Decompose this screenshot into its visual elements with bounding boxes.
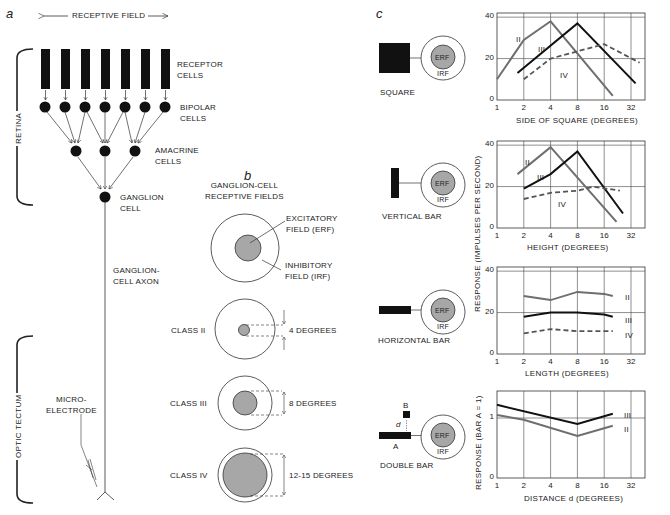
x-axis-label-height: HEIGHT (DEGREES) [527, 243, 609, 252]
class-ii-field [215, 299, 284, 359]
class-iv-size: 12-15 DEGREES [289, 470, 353, 481]
microelectrode [81, 414, 97, 487]
x-tick: 1 [495, 481, 499, 490]
class-iv-field [218, 448, 284, 502]
series-label-II: II [525, 157, 530, 168]
x-tick: 4 [548, 231, 552, 240]
panel-a-letter: a [6, 6, 13, 21]
irf-label: IRF [437, 446, 449, 457]
distance-d-label: d [396, 419, 401, 430]
series-label-II: II [625, 292, 630, 303]
ganglion-cell-label: GANGLIONCELL [120, 192, 164, 214]
x-tick: 32 [627, 103, 636, 112]
irf-label: IRF [437, 321, 449, 332]
y-tick: 20 [480, 181, 494, 190]
bar-b-label: B [403, 400, 409, 411]
class-iv-label: CLASS IV [170, 470, 208, 481]
diagram-canvas [0, 0, 670, 515]
series-III [524, 313, 613, 317]
y-tick: 0 [480, 222, 494, 231]
x-tick: 2 [522, 231, 526, 240]
class-iii-size: 8 DEGREES [289, 398, 337, 409]
series-label-IV: IV [625, 330, 633, 341]
series-label-II: II [516, 34, 521, 45]
x-tick: 8 [575, 357, 579, 366]
x-tick: 16 [600, 481, 609, 490]
series-label-III: III [624, 410, 631, 421]
receptor-cells [41, 49, 170, 89]
ganglion-axon-label: GANGLION-CELL AXON [113, 265, 160, 287]
x-tick: 16 [600, 357, 609, 366]
inhibitory-field-label: INHIBITORYFIELD (IRF) [285, 260, 333, 282]
series-IV [524, 187, 620, 199]
amacrine-cells [71, 146, 141, 157]
optic-tectum-label: OPTIC TECTUM [14, 393, 23, 460]
stimulus-horizontal-bar [379, 290, 465, 334]
irf-label: IRF [437, 68, 449, 79]
retina-label: RETINA [14, 111, 23, 146]
series-IV [524, 329, 613, 333]
y-tick: 20 [480, 307, 494, 316]
class-ii-size: 4 DEGREES [289, 325, 337, 336]
series-label-IV: IV [560, 70, 568, 81]
bar-a-label: A [393, 441, 399, 452]
y-tick: 0 [480, 94, 494, 103]
y-tick: 0 [480, 348, 494, 357]
x-tick: 32 [627, 357, 636, 366]
y-tick: 1 [480, 412, 494, 421]
series-label-III: III [537, 172, 544, 183]
x-tick: 32 [627, 481, 636, 490]
x-tick: 8 [575, 231, 579, 240]
y-tick: 20 [480, 53, 494, 62]
y-tick: 40 [480, 11, 494, 20]
stimulus-vertical-bar [391, 163, 465, 207]
x-tick: 4 [548, 103, 552, 112]
series-label-IV: IV [558, 199, 566, 210]
stimulus-vertical-bar-label: VERTICAL BAR [382, 211, 442, 222]
panel-c-letter: c [376, 6, 383, 21]
class-iii-label: CLASS III [170, 398, 207, 409]
receptive-fields-title: GANGLION-CELLRECEPTIVE FIELDS [205, 180, 284, 202]
erf-label: ERF [435, 305, 450, 316]
x-tick: 4 [548, 357, 552, 366]
y-tick: 40 [480, 139, 494, 148]
x-axis-label-square: SIDE OF SQUARE (DEGREES) [516, 116, 638, 125]
x-tick: 2 [522, 357, 526, 366]
bipolar-cells [40, 102, 171, 113]
chart-4 [497, 391, 645, 478]
chart-3 [497, 267, 645, 354]
stimulus-square-label: SQUARE [380, 87, 415, 98]
chart-1 [497, 13, 645, 100]
x-tick: 16 [600, 103, 609, 112]
x-axis-label-distance: DISTANCE d (DEGREES) [524, 494, 623, 503]
ganglion-cell [100, 192, 111, 203]
receptive-field-label: RECEPTIVE FIELD [72, 10, 145, 21]
stimulus-horizontal-bar-label: HORIZONTAL BAR [378, 335, 450, 346]
series-label-III: III [538, 44, 545, 55]
x-tick: 32 [627, 231, 636, 240]
x-tick: 1 [495, 103, 499, 112]
x-tick: 2 [522, 103, 526, 112]
microelectrode-label: MICRO-ELECTRODE [46, 394, 97, 416]
stimulus-square [379, 36, 465, 80]
receptor-cells-label: RECEPTORCELLS [177, 59, 223, 81]
series-label-II: II [624, 424, 629, 435]
stimulus-double-bar-label: DOUBLE BAR [380, 460, 434, 471]
x-tick: 2 [522, 481, 526, 490]
chart-2 [497, 141, 645, 228]
series-label-III: III [625, 315, 632, 326]
erf-label: ERF [435, 52, 450, 63]
class-ii-label: CLASS II [171, 325, 206, 336]
x-tick: 1 [495, 357, 499, 366]
x-tick: 16 [600, 231, 609, 240]
x-tick: 1 [495, 231, 499, 240]
excitatory-field-label: EXCITATORYFIELD (ERF) [286, 213, 338, 235]
example-receptive-field [211, 214, 285, 282]
bipolar-cells-label: BIPOLARCELLS [180, 102, 216, 124]
series-II [524, 292, 613, 300]
x-axis-label-length: LENGTH (DEGREES) [525, 369, 609, 378]
x-tick: 8 [575, 103, 579, 112]
erf-label: ERF [435, 178, 450, 189]
class-iii-field [218, 376, 284, 430]
y-axis-label-impulses: RESPONSE (IMPULSES PER SECOND) [473, 155, 482, 312]
